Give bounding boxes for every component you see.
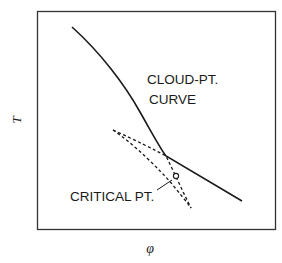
y-axis-label: T — [9, 116, 24, 124]
critical-point-leader — [157, 180, 172, 190]
phase-diagram: CLOUD-PT. CURVE CRITICAL PT. φ T — [0, 0, 282, 263]
critical-point-marker — [173, 173, 178, 178]
cloud-point-curve — [72, 27, 242, 201]
critical-point-label: CRITICAL PT. — [70, 189, 154, 204]
x-axis-label: φ — [146, 241, 154, 256]
cloud-point-label-line2: CURVE — [149, 92, 196, 107]
cloud-point-label-line1: CLOUD-PT. — [147, 72, 218, 87]
